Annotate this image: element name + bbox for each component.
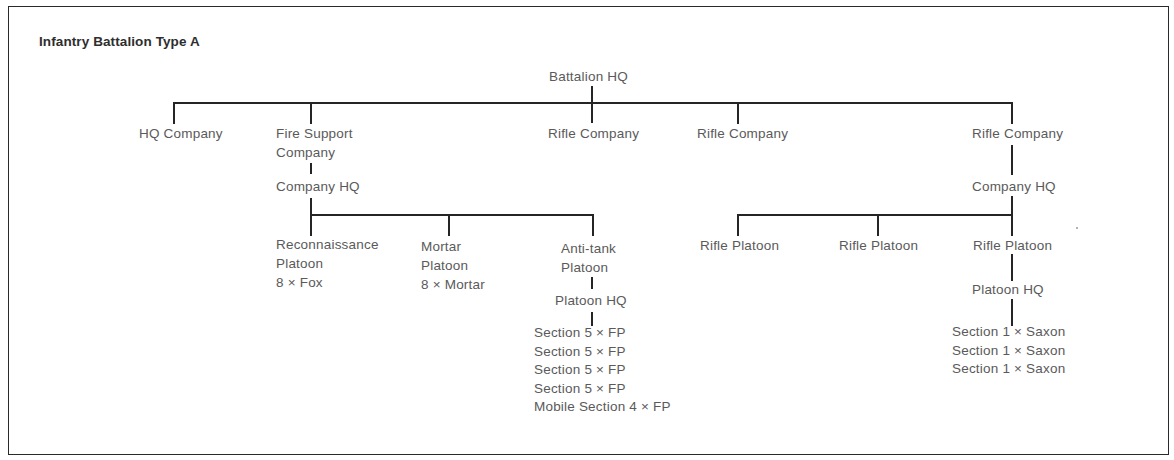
- node-antitank-platoon-hq: Platoon HQ: [555, 291, 627, 310]
- list-item: Section 5 × FP: [534, 380, 671, 399]
- connector-antitank-platoon: [592, 214, 594, 236]
- connector-rc-hq-down: [1011, 196, 1013, 236]
- list-antitank-sections: Section 5 × FP Section 5 × FP Section 5 …: [534, 324, 671, 417]
- node-fs-company-hq: Company HQ: [276, 177, 360, 196]
- list-item: Section 1 × Saxon: [952, 342, 1065, 361]
- connector-rifle-platoon-2: [877, 214, 879, 236]
- diagram-title: Infantry Battalion Type A: [39, 34, 200, 49]
- node-recon-platoon: Reconnaissance Platoon 8 × Fox: [276, 235, 379, 292]
- connector-rc-company-hq: [1011, 145, 1013, 175]
- list-rifle-sections: Section 1 × Saxon Section 1 × Saxon Sect…: [952, 323, 1065, 379]
- connector-rp-sections: [1011, 299, 1013, 326]
- connector-fs-company-hq: [310, 163, 312, 174]
- connector-rifle-company-1: [737, 102, 739, 124]
- connector-rifle-company-3: [1011, 102, 1013, 124]
- connector-rc-platoon-bar: [737, 214, 1013, 216]
- node-rifle-platoon-1: Rifle Platoon: [700, 236, 779, 255]
- list-item: Section 5 × FP: [534, 343, 671, 362]
- node-fire-support-company: Fire Support Company: [276, 124, 353, 162]
- node-rc-company-hq: Company HQ: [972, 177, 1056, 196]
- node-rifle-platoon-hq: Platoon HQ: [972, 280, 1044, 299]
- connector-fs-hq-down: [310, 198, 312, 236]
- list-item: Section 5 × FP: [534, 324, 671, 343]
- connector-mortar-platoon: [448, 214, 450, 236]
- connector-rp-platoon-hq: [1011, 254, 1013, 281]
- node-mortar-platoon: Mortar Platoon 8 × Mortar: [421, 237, 485, 294]
- list-item: Mobile Section 4 × FP: [534, 398, 671, 417]
- connector-fs-platoon-bar: [310, 214, 594, 216]
- connector-rifle-platoon-1: [737, 214, 739, 236]
- node-rifle-company-1: Rifle Company: [548, 124, 639, 143]
- list-item: Section 1 × Saxon: [952, 360, 1065, 379]
- scan-artifact: [1076, 227, 1078, 229]
- connector-root-down: [591, 86, 593, 123]
- node-rifle-platoon-2: Rifle Platoon: [839, 236, 918, 255]
- node-rifle-company-2: Rifle Company: [697, 124, 788, 143]
- connector-antitank-hq: [591, 277, 593, 289]
- list-item: Section 1 × Saxon: [952, 323, 1065, 342]
- node-antitank-platoon: Anti-tank Platoon: [561, 239, 616, 277]
- connector-battalion-bar: [173, 102, 1013, 104]
- connector-fire-support: [310, 102, 312, 124]
- node-battalion-hq: Battalion HQ: [549, 67, 628, 86]
- connector-hq-company: [173, 102, 175, 124]
- node-hq-company: HQ Company: [139, 124, 223, 143]
- list-item: Section 5 × FP: [534, 361, 671, 380]
- node-rifle-platoon-3: Rifle Platoon: [973, 236, 1052, 255]
- node-rifle-company-3: Rifle Company: [972, 124, 1063, 143]
